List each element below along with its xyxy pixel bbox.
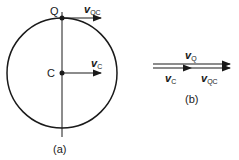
caption-b: (b) — [185, 93, 198, 105]
caption-a: (a) — [53, 143, 66, 155]
diagram-a: Q C vQC vC (a) — [7, 3, 117, 155]
label-vc-b: vC — [165, 72, 176, 85]
label-c: C — [47, 67, 55, 79]
label-vqc: vQC — [84, 3, 101, 17]
label-vq: vQ — [185, 49, 197, 63]
diagram-b: vQ vC vQC (b) — [153, 49, 230, 105]
label-q: Q — [50, 5, 59, 17]
label-vc: vC — [91, 57, 102, 70]
velocity-diagram: Q C vQC vC (a) vQ vC vQC (b) — [0, 0, 239, 160]
label-vqc-b: vQC — [201, 72, 218, 86]
